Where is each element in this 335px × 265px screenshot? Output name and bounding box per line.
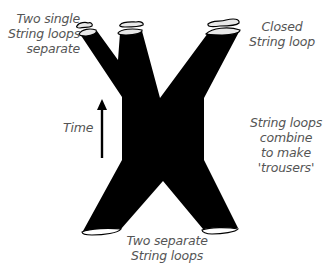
label-line: Closed [247,19,317,34]
label-two-separate-loops: Two separate String loops [117,233,217,263]
label-line: Two single [6,11,80,26]
label-loops-combine-trousers: String loops combine to make 'trousers' [236,115,335,175]
worldsheet-surface [80,30,240,231]
label-line: separate [6,41,80,56]
label-line: String loops [6,26,80,41]
label-line: Time [63,120,93,135]
loop-top-middle-separated [120,22,143,27]
label-two-single-loops-separate: Two single String loops separate [6,11,80,56]
time-arrow-head [97,99,107,110]
loop-end-top-right [206,28,240,35]
trousers-diagram: Two single String loops separate Closed … [0,0,335,265]
label-closed-string-loop: Closed String loop [247,19,317,49]
label-time: Time [63,120,93,135]
label-line: Two separate [117,233,217,248]
label-line: String loops combine [236,115,335,145]
label-line: String loops [117,248,217,263]
label-line: to make 'trousers' [236,145,335,175]
label-line: String loop [247,34,317,49]
loop-top-right-closed [208,19,239,27]
